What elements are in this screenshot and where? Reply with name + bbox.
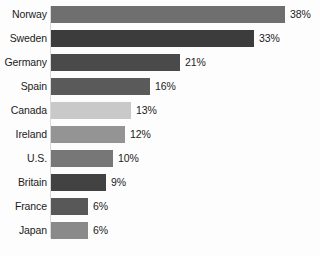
- bar-track: 12%: [51, 126, 151, 143]
- bar-track: 38%: [51, 6, 311, 23]
- bar-value-label: 16%: [155, 78, 176, 95]
- bar-row: Germany21%: [0, 54, 320, 71]
- bar-value-label: 13%: [136, 102, 157, 119]
- plot-area: Norway38%Sweden33%Germany21%Spain16%Cana…: [0, 6, 320, 250]
- bar: [51, 30, 254, 47]
- bar: [51, 222, 88, 239]
- bar-track: 21%: [51, 54, 206, 71]
- bar-value-label: 6%: [93, 198, 108, 215]
- bar-track: 10%: [51, 150, 139, 167]
- bar-row: Britain9%: [0, 174, 320, 191]
- bar-track: 6%: [51, 222, 108, 239]
- bar-value-label: 10%: [118, 150, 139, 167]
- bar: [51, 102, 131, 119]
- bar-row: Japan6%: [0, 222, 320, 239]
- category-label: Germany: [0, 54, 47, 71]
- bar-value-label: 6%: [93, 222, 108, 239]
- bar-row: France6%: [0, 198, 320, 215]
- bar: [51, 6, 285, 23]
- category-label: Spain: [0, 78, 47, 95]
- bar: [51, 174, 106, 191]
- bar-value-label: 21%: [185, 54, 206, 71]
- bar-row: U.S.10%: [0, 150, 320, 167]
- bar-row: Spain16%: [0, 78, 320, 95]
- bar-value-label: 38%: [290, 6, 311, 23]
- bar-track: 9%: [51, 174, 126, 191]
- bar: [51, 198, 88, 215]
- bar-value-label: 12%: [130, 126, 151, 143]
- bar-chart: Norway38%Sweden33%Germany21%Spain16%Cana…: [0, 0, 320, 256]
- bar: [51, 54, 180, 71]
- category-label: Sweden: [0, 30, 47, 47]
- category-label: Britain: [0, 174, 47, 191]
- bar-row: Sweden33%: [0, 30, 320, 47]
- bar-row: Norway38%: [0, 6, 320, 23]
- category-label: France: [0, 198, 47, 215]
- bar-row: Canada13%: [0, 102, 320, 119]
- category-label: Canada: [0, 102, 47, 119]
- category-label: Japan: [0, 222, 47, 239]
- bar-track: 13%: [51, 102, 157, 119]
- bar-track: 6%: [51, 198, 108, 215]
- bar: [51, 150, 113, 167]
- category-label: U.S.: [0, 150, 47, 167]
- bar-row: Ireland12%: [0, 126, 320, 143]
- category-label: Ireland: [0, 126, 47, 143]
- bar: [51, 78, 150, 95]
- bar-value-label: 33%: [259, 30, 280, 47]
- bar-track: 33%: [51, 30, 280, 47]
- bar-value-label: 9%: [111, 174, 126, 191]
- bar: [51, 126, 125, 143]
- category-label: Norway: [0, 6, 47, 23]
- bar-track: 16%: [51, 78, 176, 95]
